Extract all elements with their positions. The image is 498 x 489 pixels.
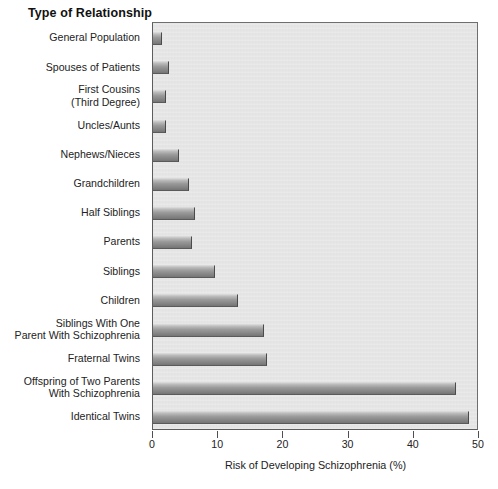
bar (153, 90, 166, 103)
x-tick-label: 50 (472, 438, 484, 450)
category-label: Uncles/Aunts (0, 119, 146, 131)
category-label: Children (0, 294, 146, 306)
category-label: Siblings (0, 265, 146, 277)
bar (153, 294, 238, 307)
category-label: First Cousins (Third Degree) (0, 83, 146, 108)
x-tick-mark (413, 431, 414, 438)
category-label: Nephews/Nieces (0, 148, 146, 160)
bars-layer (153, 23, 477, 429)
category-label: Siblings With One Parent With Schizophre… (0, 317, 146, 342)
category-axis-labels: General PopulationSpouses of PatientsFir… (0, 22, 146, 430)
category-label: General Population (0, 31, 146, 43)
x-axis-title: Risk of Developing Schizophrenia (%) (152, 459, 479, 471)
bar (153, 61, 169, 74)
x-tick-label: 10 (211, 438, 223, 450)
bar (153, 382, 456, 395)
bar (153, 207, 195, 220)
x-tick-mark (217, 431, 218, 438)
x-tick-mark (282, 431, 283, 438)
category-label: Half Siblings (0, 206, 146, 218)
bar (153, 265, 215, 278)
x-tick-label: 20 (276, 438, 288, 450)
category-label: Offspring of Two Parents With Schizophre… (0, 375, 146, 400)
category-label: Fraternal Twins (0, 352, 146, 364)
x-tick-mark (478, 431, 479, 438)
x-tick-mark (348, 431, 349, 438)
bar (153, 411, 469, 424)
bar (153, 353, 267, 366)
category-label: Grandchildren (0, 177, 146, 189)
bar (153, 149, 179, 162)
x-tick-label: 30 (342, 438, 354, 450)
x-tick-mark (152, 431, 153, 438)
x-tick-label: 0 (149, 438, 155, 450)
category-label: Parents (0, 235, 146, 247)
x-tick-label: 40 (407, 438, 419, 450)
category-label: Spouses of Patients (0, 61, 146, 73)
bar (153, 120, 166, 133)
plot-area (152, 22, 478, 430)
bar (153, 178, 189, 191)
chart-title: Type of Relationship (28, 6, 152, 20)
schizophrenia-risk-chart: Type of Relationship General PopulationS… (0, 0, 498, 489)
bar (153, 32, 162, 45)
category-label: Identical Twins (0, 410, 146, 422)
bar (153, 236, 192, 249)
x-axis-tick-labels: 01020304050 (0, 438, 498, 454)
bar (153, 324, 264, 337)
